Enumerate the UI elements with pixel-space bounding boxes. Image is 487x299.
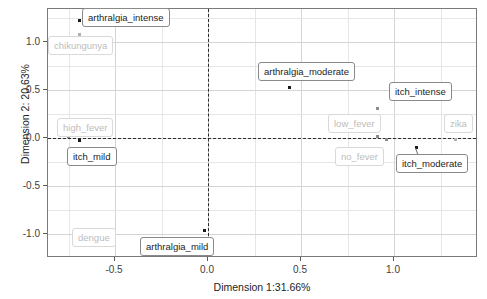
point-label-no-fever[interactable]: no_fever: [335, 147, 384, 166]
point-label-chikungunya[interactable]: chikungunya: [48, 36, 113, 55]
y-tick-mark: [43, 137, 47, 138]
gridline-horizontal-minor: [48, 210, 476, 211]
point-label-high-fever[interactable]: high_fever: [57, 118, 113, 137]
data-point[interactable]: [454, 138, 457, 141]
point-label-arthralgia-intense[interactable]: arthralgia_intense: [82, 8, 170, 27]
data-point[interactable]: [376, 107, 379, 110]
gridline-vertical: [115, 9, 116, 256]
y-axis-title: Dimension 2: 20.63%: [19, 34, 31, 194]
x-tick-label: 0.0: [200, 264, 214, 275]
reference-line-horizontal: [48, 138, 476, 139]
gridline-horizontal: [48, 186, 476, 187]
gridline-vertical: [394, 9, 395, 256]
gridline-vertical-minor: [255, 9, 256, 256]
point-label-itch-mild[interactable]: itch_mild: [67, 147, 117, 166]
data-point[interactable]: [385, 138, 388, 141]
x-tick-label: 1.0: [386, 264, 400, 275]
x-tick-label: -0.5: [105, 264, 122, 275]
point-label-zika[interactable]: zika: [444, 114, 473, 133]
y-tick-mark: [43, 41, 47, 42]
mca-factor-map: -0.50.00.51.0 1.00.50.0-0.5-1.0 Dimensio…: [0, 0, 487, 299]
point-label-itch-moderate[interactable]: itch_moderate: [396, 154, 468, 173]
y-tick-label: -1.0: [23, 228, 40, 239]
y-tick-mark: [43, 185, 47, 186]
point-label-arthralgia-moderate[interactable]: arthralgia_moderate: [258, 62, 355, 81]
reference-line-vertical: [208, 9, 209, 256]
x-tick-mark: [207, 257, 208, 261]
y-tick-mark: [43, 89, 47, 90]
point-label-low-fever[interactable]: low_fever: [328, 114, 381, 133]
gridline-vertical: [301, 9, 302, 256]
point-label-itch-intense[interactable]: itch_intense: [389, 82, 452, 101]
point-label-dengue[interactable]: dengue: [72, 228, 116, 247]
y-tick-mark: [43, 233, 47, 234]
data-point[interactable]: [376, 135, 379, 138]
data-point[interactable]: [78, 139, 81, 142]
x-tick-mark: [393, 257, 394, 261]
gridline-vertical-minor: [162, 9, 163, 256]
x-axis-title: Dimension 1:31.66%: [47, 281, 477, 293]
gridline-vertical-minor: [441, 9, 442, 256]
data-point[interactable]: [203, 229, 206, 232]
x-tick-mark: [114, 257, 115, 261]
data-point[interactable]: [288, 86, 291, 89]
x-tick-mark: [300, 257, 301, 261]
x-tick-label: 0.5: [293, 264, 307, 275]
gridline-horizontal-minor: [48, 114, 476, 115]
data-point[interactable]: [78, 19, 81, 22]
point-label-arthralgia-mild[interactable]: arthralgia_mild: [140, 237, 214, 256]
